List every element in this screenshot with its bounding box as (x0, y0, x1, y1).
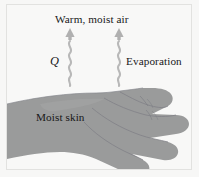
up-arrow-icon-right (114, 28, 123, 40)
label-heat-symbol: Q (50, 55, 59, 67)
figure-artwork (0, 0, 199, 177)
hand-icon (7, 88, 189, 177)
wavy-vapor-icon-left (69, 41, 71, 86)
wavy-vapor-icon-right (118, 41, 120, 86)
label-evaporation: Evaporation (126, 56, 182, 67)
label-warm-moist-air: Warm, moist air (55, 14, 129, 25)
evaporative-cooling-figure: Warm, moist air Q Evaporation Moist skin (0, 0, 199, 177)
up-arrow-icon-left (65, 28, 74, 40)
label-moist-skin: Moist skin (36, 112, 85, 123)
